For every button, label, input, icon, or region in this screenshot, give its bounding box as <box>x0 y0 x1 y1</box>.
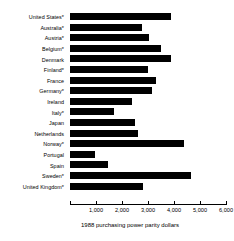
bar-row <box>70 12 226 23</box>
x-axis-tick <box>96 201 97 204</box>
bar-row <box>70 129 226 140</box>
category-label: Netherlands <box>34 131 64 137</box>
bar <box>70 87 152 94</box>
category-label-row: United States* <box>0 12 67 23</box>
x-axis-tick <box>122 201 123 204</box>
bar-row <box>70 23 226 34</box>
category-label: Belgium* <box>42 46 64 52</box>
category-label: France <box>47 78 64 84</box>
category-label: Spain <box>50 163 64 169</box>
bar-row <box>70 107 226 118</box>
bar <box>70 24 142 31</box>
x-axis-title: 1988 purchasing power parity dollars <box>0 221 234 229</box>
x-axis-title-text: 1988 purchasing power parity dollars <box>55 222 179 228</box>
plot-area <box>70 12 226 203</box>
bar-row <box>70 182 226 193</box>
bar-row <box>70 65 226 76</box>
bar-row <box>70 76 226 87</box>
category-label: Austria* <box>45 35 64 41</box>
category-label-row: Denmark <box>0 54 67 65</box>
category-label: Japan <box>49 120 64 126</box>
x-axis-tick <box>226 201 227 204</box>
category-label-row: Germany* <box>0 86 67 97</box>
bar <box>70 119 135 126</box>
category-label-row: United Kingdom* <box>0 182 67 193</box>
bar <box>70 77 156 84</box>
x-axis-line <box>70 204 227 205</box>
category-label: Ireland <box>47 99 64 105</box>
bar <box>70 108 114 115</box>
bar <box>70 45 161 52</box>
x-axis-tick-label: 3,000 <box>141 207 155 214</box>
category-label: United Kingdom* <box>23 184 64 190</box>
x-axis-tick-label: 6,000 <box>219 207 233 214</box>
x-axis-tick-label: 5,000 <box>193 207 207 214</box>
bar <box>70 98 132 105</box>
bar <box>70 55 171 62</box>
category-label-row: France <box>0 76 67 87</box>
bar-chart: United States* Australia* Austria* Belgi… <box>0 0 234 241</box>
category-label: Sweden* <box>42 173 64 179</box>
category-label-row: Belgium* <box>0 44 67 55</box>
bar-series <box>70 12 226 203</box>
bar <box>70 140 184 147</box>
x-axis-tick <box>70 201 71 204</box>
bar <box>70 13 171 20</box>
x-axis-tick-label: 1,000 <box>89 207 103 214</box>
category-label: Norway* <box>43 141 64 147</box>
category-label: Denmark <box>42 57 64 63</box>
category-label: Finland* <box>44 67 64 73</box>
category-label-row: Ireland <box>0 97 67 108</box>
category-label-row: Norway* <box>0 139 67 150</box>
x-axis-tick-label: 2,000 <box>115 207 129 214</box>
category-label: Germany* <box>39 88 64 94</box>
bar-row <box>70 97 226 108</box>
bar <box>70 172 191 179</box>
category-label: Italy* <box>52 110 64 116</box>
bar <box>70 161 108 168</box>
category-label-row: Sweden* <box>0 171 67 182</box>
category-label-row: Austria* <box>0 33 67 44</box>
x-axis-tick-label: 4,000 <box>167 207 181 214</box>
bar-row <box>70 44 226 55</box>
bar-row <box>70 139 226 150</box>
category-label-row: Australia* <box>0 23 67 34</box>
bar-row <box>70 160 226 171</box>
bar <box>70 34 149 41</box>
category-label-row: Japan <box>0 118 67 129</box>
category-label: United States* <box>29 14 64 20</box>
bar <box>70 130 138 137</box>
bar <box>70 183 143 190</box>
category-label-row: Spain <box>0 160 67 171</box>
bar-row <box>70 33 226 44</box>
x-axis-tick <box>148 201 149 204</box>
x-axis-tick <box>200 201 201 204</box>
category-label-row: Netherlands <box>0 129 67 140</box>
bar-row <box>70 86 226 97</box>
bar-row <box>70 118 226 129</box>
category-label-row: Portugal <box>0 150 67 161</box>
category-label-row: Finland* <box>0 65 67 76</box>
category-axis-labels: United States* Australia* Austria* Belgi… <box>0 12 67 203</box>
bar <box>70 66 148 73</box>
category-label: Australia* <box>40 25 64 31</box>
bar-row <box>70 150 226 161</box>
x-axis-tick <box>174 201 175 204</box>
category-label-row: Italy* <box>0 107 67 118</box>
category-label: Portugal <box>44 152 64 158</box>
bar-row <box>70 171 226 182</box>
bar <box>70 151 95 158</box>
bar-row <box>70 54 226 65</box>
